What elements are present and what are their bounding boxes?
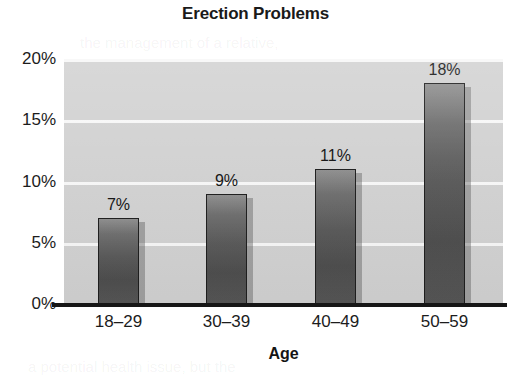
x-tick-label-30-39: 30–39 [167, 312, 287, 332]
bar-30-39 [206, 194, 247, 304]
bar-value-50-59: 18% [410, 61, 480, 79]
y-tick-label-15: 15% [0, 110, 56, 130]
bar-value-40-49: 11% [301, 147, 371, 165]
bar-50-59 [424, 83, 465, 304]
x-tick-label-50-59: 50–59 [385, 312, 505, 332]
bar-40-49 [315, 169, 356, 304]
x-tick-label-40-49: 40–49 [276, 312, 396, 332]
chart-title: Erection Problems [0, 4, 511, 24]
x-axis-line [52, 303, 507, 307]
y-tick-label-10: 10% [0, 172, 56, 192]
x-axis-title: Age [64, 345, 503, 363]
y-tick-label-20: 20% [0, 49, 56, 69]
bar-chart: the management of a relative, a potentia… [0, 0, 511, 377]
y-axis: 20% 15% 10% 5% 0% [0, 59, 58, 304]
x-tick-label-18-29: 18–29 [59, 312, 179, 332]
scan-ghost-text-top: the management of a relative, [80, 34, 278, 51]
y-tick-label-0: 0% [0, 294, 56, 314]
y-tick-label-5: 5% [0, 233, 56, 253]
bar-18-29 [98, 218, 139, 304]
bar-value-18-29: 7% [84, 196, 154, 214]
bar-value-30-39: 9% [192, 172, 262, 190]
plot-area: 7% 9% 11% 18% [64, 59, 503, 304]
